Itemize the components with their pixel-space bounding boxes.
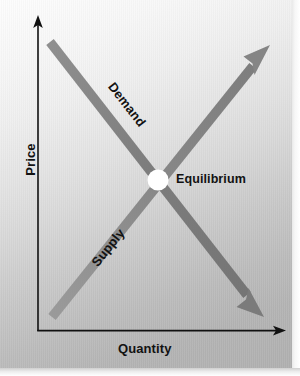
supply-demand-diagram: Price Quantity Demand Supply Equilibrium xyxy=(0,0,300,376)
y-axis-label: Price xyxy=(23,143,38,175)
x-axis xyxy=(37,326,286,336)
page-right-margin xyxy=(292,0,300,376)
equilibrium-label: Equilibrium xyxy=(176,172,246,186)
diagram-vector-layer xyxy=(0,0,292,368)
page-bottom-margin xyxy=(0,368,300,376)
x-axis-label: Quantity xyxy=(118,341,172,356)
equilibrium-point xyxy=(148,170,169,191)
